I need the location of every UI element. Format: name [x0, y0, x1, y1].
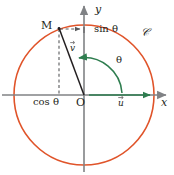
- cos-theta-label: cos θ: [33, 97, 59, 107]
- point-m-label: M: [41, 20, 52, 31]
- vector-v-label: v: [70, 44, 75, 53]
- circle-name-label: 𝒞: [141, 27, 149, 38]
- origin-label: O: [76, 97, 85, 108]
- vector-v-letter: v: [70, 43, 75, 53]
- sin-theta-label: sin θ: [94, 24, 118, 34]
- trigonometry-figure: M y x O sin θ cos θ θ 𝒞 u v: [0, 0, 174, 175]
- angle-theta-label: θ: [116, 55, 122, 65]
- point-m-marker: [58, 27, 61, 30]
- y-axis-label: y: [95, 4, 101, 15]
- vector-u-label: u: [118, 99, 124, 108]
- vector-u-letter: u: [118, 98, 124, 108]
- x-axis-label: x: [161, 97, 167, 108]
- radius-segment-OM: [59, 28, 84, 95]
